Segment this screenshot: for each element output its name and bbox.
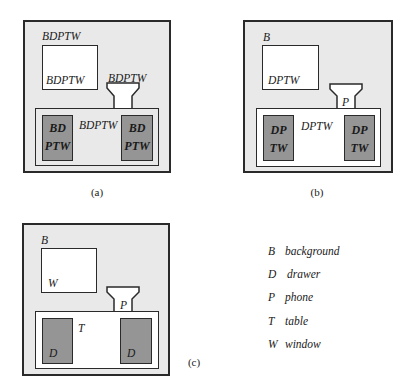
panel-b-table-label: DPTW <box>301 120 332 132</box>
panel-b-phone-label: P <box>342 96 349 108</box>
panel-a-table: BDPTW BD PTW BD PTW <box>35 108 159 166</box>
legend-name: phone <box>285 291 313 303</box>
panel-b-window: DPTW <box>262 45 319 90</box>
panel-c-drawer-left-label: D <box>49 347 57 359</box>
panel-b-drawer-left: DP TW <box>263 115 294 161</box>
panel-b-drawer-left-label-1: DP <box>264 124 293 136</box>
panel-b-drawer-left-label-2: TW <box>264 142 293 154</box>
panel-a-drawer-right-label-1: BD <box>122 122 152 134</box>
legend-key: T <box>268 315 274 327</box>
panel-a-drawer-right: BD PTW <box>121 115 153 161</box>
panel-a-window-label: BDPTW <box>46 74 84 86</box>
panel-b-drawer-right: DP TW <box>344 115 375 161</box>
panel-a-drawer-left-label-1: BD <box>43 122 72 134</box>
panel-b-table: DPTW DP TW DP TW <box>256 108 381 167</box>
panel-c-drawer-right: D <box>120 318 152 364</box>
legend-name: background <box>285 245 340 257</box>
panel-c-window-label: W <box>48 277 58 289</box>
panel-c-background-label: B <box>41 234 48 246</box>
panel-b-background-label: B <box>263 31 270 43</box>
legend-name: table <box>285 315 308 327</box>
panel-a-caption: (a) <box>91 186 103 198</box>
panel-a-phone-icon <box>106 82 140 110</box>
panel-a-drawer-left: BD PTW <box>42 115 73 161</box>
panel-a-table-label: BDPTW <box>79 119 117 131</box>
panel-c-window: W <box>41 248 97 293</box>
panel-a-drawer-left-label-2: PTW <box>43 140 72 152</box>
panel-c-phone-label: P <box>120 299 127 311</box>
panel-c-caption: (c) <box>188 356 200 368</box>
panel-b-drawer-right-label-2: TW <box>345 142 374 154</box>
legend-name: window <box>285 338 321 350</box>
legend-key: P <box>268 291 275 303</box>
legend: B background D drawer P phone T table W … <box>268 245 388 355</box>
panel-b-drawer-right-label-1: DP <box>345 124 374 136</box>
panel-a-background-label: BDPTW <box>42 30 80 42</box>
panel-a-window: BDPTW <box>42 45 98 90</box>
panel-b-window-label: DPTW <box>268 74 299 86</box>
panel-c-table: T D D <box>35 311 159 369</box>
panel-c-table-label: T <box>78 322 84 334</box>
legend-key: W <box>268 338 278 350</box>
panel-c-drawer-left: D <box>42 318 73 364</box>
panel-a-drawer-right-label-2: PTW <box>122 140 152 152</box>
legend-key: D <box>268 268 276 280</box>
panel-b-caption: (b) <box>311 186 324 198</box>
panel-c-drawer-right-label: D <box>127 347 135 359</box>
legend-name: drawer <box>287 268 320 280</box>
legend-key: B <box>268 245 275 257</box>
